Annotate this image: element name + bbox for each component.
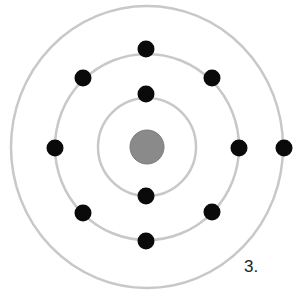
electron [204,204,221,221]
electron [231,140,248,157]
nucleus [130,130,164,164]
electron [138,41,155,58]
electron [138,188,155,205]
figure-label: 3. [244,257,258,277]
electron [75,70,92,87]
electron [138,233,155,250]
electron [276,140,293,157]
electron [204,70,221,87]
electron [47,140,64,157]
atom-diagram [0,0,301,295]
electron [75,205,92,222]
electron [138,86,155,103]
